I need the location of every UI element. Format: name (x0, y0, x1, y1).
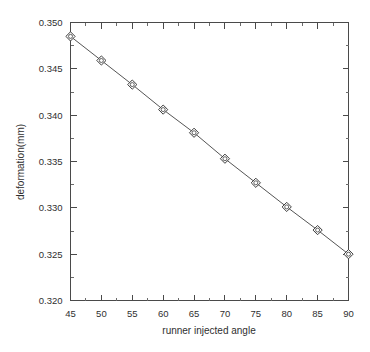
x-tick-label: 75 (251, 308, 262, 319)
x-tick-label: 80 (281, 308, 292, 319)
y-tick-label: 0.335 (39, 156, 63, 167)
y-axis-tick-labels: 0.3200.3250.3300.3350.3400.3450.350 (39, 17, 63, 306)
data-series-line (71, 36, 349, 254)
y-tick-label: 0.345 (39, 63, 63, 74)
axis-ticks (71, 23, 349, 301)
x-tick-label: 55 (127, 308, 138, 319)
series-polyline (71, 36, 349, 254)
x-tick-label: 90 (343, 308, 354, 319)
y-tick-label: 0.340 (39, 110, 63, 121)
data-point-marker (97, 56, 106, 65)
data-point-marker (282, 202, 291, 211)
data-point-marker (344, 250, 353, 259)
data-point-marker (313, 225, 322, 234)
chart-canvas: 45505560657075808590 0.3200.3250.3300.33… (0, 0, 370, 352)
x-tick-label: 60 (158, 308, 169, 319)
plot-frame (71, 23, 349, 301)
x-axis-title: runner injected angle (162, 325, 256, 336)
x-tick-label: 50 (96, 308, 107, 319)
deformation-vs-angle-chart: 45505560657075808590 0.3200.3250.3300.33… (0, 0, 370, 352)
y-axis-title: deformation(mm) (15, 124, 26, 200)
y-tick-label: 0.350 (39, 17, 63, 28)
y-tick-label: 0.320 (39, 295, 63, 306)
x-tick-label: 85 (312, 308, 323, 319)
x-axis-tick-labels: 45505560657075808590 (65, 308, 354, 319)
x-tick-label: 65 (189, 308, 200, 319)
y-tick-label: 0.330 (39, 202, 63, 213)
x-tick-label: 45 (65, 308, 76, 319)
x-tick-label: 70 (220, 308, 231, 319)
data-point-marker (66, 32, 75, 41)
y-tick-label: 0.325 (39, 249, 63, 260)
data-point-marker (251, 178, 260, 187)
